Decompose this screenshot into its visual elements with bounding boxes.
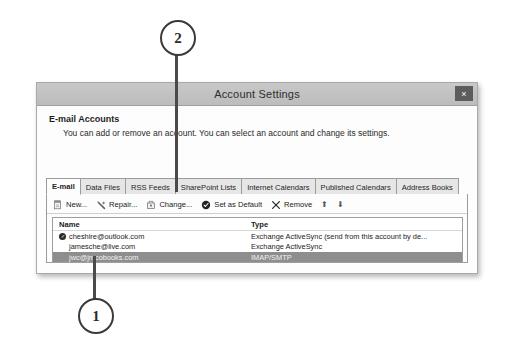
account-type: IMAP/SMTP [251,253,462,262]
tab-data-files[interactable]: Data Files [80,178,126,195]
tab-sharepoint-lists[interactable]: SharePoint Lists [175,178,242,195]
email-accounts-panel: New... Repair... [46,194,468,263]
remove-account-button[interactable]: Remove [271,200,312,210]
callout-leader-line-2 [175,52,178,192]
account-type: Exchange ActiveSync (send from this acco… [251,232,462,241]
dialog-titlebar: Account Settings × [37,83,477,106]
move-down-icon[interactable]: ⬇ [337,200,344,209]
account-settings-dialog: Account Settings × E-mail Accounts You c… [36,82,478,274]
dialog-body: E-mail Accounts You can add or remove an… [37,106,477,273]
account-name: jwc@jmcobooks.com [69,253,139,262]
table-row[interactable]: ✓ cheshire@outlook.com Exchange ActiveSy… [53,231,462,242]
callout-marker-2: 2 [160,20,196,56]
account-name: cheshire@outlook.com [69,232,144,241]
tab-address-books-label: Address Books [402,183,453,192]
accounts-toolbar: New... Repair... [47,194,467,214]
set-as-default-label: Set as Default [214,200,262,209]
check-circle-icon [201,200,211,210]
column-header-name: Name [53,220,251,229]
new-account-button[interactable]: New... [53,200,87,210]
wrench-icon [96,200,106,210]
section-heading: E-mail Accounts [49,114,119,124]
callout-marker-1: 1 [78,298,114,334]
tab-rss-feeds[interactable]: RSS Feeds [125,178,176,195]
tab-sharepoint-lists-label: SharePoint Lists [181,183,236,192]
new-document-icon [53,200,63,210]
default-account-check-icon-placeholder [59,243,66,250]
tab-address-books[interactable]: Address Books [396,178,459,195]
section-description: You can add or remove an account. You ca… [63,128,390,138]
list-header-row: Name Type [53,218,462,231]
screenshot-root: 2 1 Account Settings × E-mail Accounts Y… [0,0,508,358]
account-type: Exchange ActiveSync [251,242,462,251]
table-row-selected[interactable]: jwc@jmcobooks.com IMAP/SMTP [53,252,462,263]
tab-data-files-label: Data Files [86,183,120,192]
move-up-icon[interactable]: ⬆ [321,200,328,209]
tab-email-label: E-mail [52,182,75,191]
default-account-check-icon: ✓ [59,233,66,240]
tab-published-calendars[interactable]: Published Calendars [315,178,397,195]
tab-internet-calendars-label: Internet Calendars [247,183,309,192]
default-account-check-icon-placeholder [59,254,66,261]
remove-account-label: Remove [284,200,312,209]
tab-rss-feeds-label: RSS Feeds [131,183,170,192]
column-header-type: Type [251,220,462,229]
tab-email[interactable]: E-mail [46,178,81,195]
repair-account-button[interactable]: Repair... [96,200,137,210]
close-x-icon [271,200,281,210]
new-account-label: New... [66,200,87,209]
account-name: jamesche@live.com [69,242,135,251]
repair-account-label: Repair... [109,200,137,209]
change-account-button[interactable]: Change... [146,200,192,210]
settings-wrench-icon [146,200,156,210]
tab-internet-calendars[interactable]: Internet Calendars [241,178,315,195]
dialog-title: Account Settings [214,88,300,100]
close-icon[interactable]: × [455,86,473,101]
close-icon-glyph: × [461,89,466,99]
accounts-listbox[interactable]: Name Type ✓ cheshire@outlook.com Exchang… [52,217,463,263]
tab-published-calendars-label: Published Calendars [321,183,391,192]
callout-marker-1-label: 1 [92,308,100,325]
change-account-label: Change... [159,200,192,209]
table-row[interactable]: jamesche@live.com Exchange ActiveSync [53,242,462,253]
callout-leader-line-1 [93,256,96,300]
set-as-default-button[interactable]: Set as Default [201,200,262,210]
callout-marker-2-label: 2 [174,30,182,47]
